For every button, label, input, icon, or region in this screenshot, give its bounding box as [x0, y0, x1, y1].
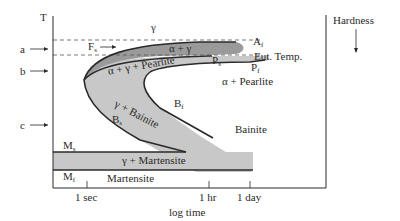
region-bainite: Bainite: [235, 124, 267, 135]
martensite-start-label: Ms: [63, 140, 76, 153]
ferrite-start-label: Fs: [88, 41, 97, 54]
eutectoid-temp-label: Eut. Temp.: [254, 51, 302, 62]
austenite-finish-label: Af: [253, 36, 263, 49]
y-axis-label: T: [40, 12, 47, 23]
x-axis-label: log time: [169, 207, 205, 218]
bainite-finish-label: Bf: [174, 98, 184, 111]
region-gamma: γ: [151, 22, 156, 33]
martensite-finish-label: Mf: [63, 171, 75, 184]
region-gamma-martensite: γ + Martensite: [122, 155, 186, 166]
diagram-graphics: [0, 0, 400, 221]
pearlite-finish-label: Pf: [251, 62, 259, 75]
pearlite-start-label: Ps: [212, 55, 221, 68]
bainite-start-label: Bs: [112, 114, 122, 127]
region-martensite: Martensite: [107, 173, 154, 184]
x-tick-1-sec: 1 sec: [75, 192, 97, 203]
marker-c: c: [20, 120, 25, 131]
ttt-diagram: T a b c γ α + γ α + γ + Pearlite α + Pea…: [0, 0, 400, 221]
marker-b: b: [20, 66, 26, 77]
region-alpha-pearlite: α + Pearlite: [222, 76, 273, 87]
x-tick-1-hr: 1 hr: [199, 192, 216, 203]
x-tick-1-day: 1 day: [237, 192, 261, 203]
marker-a: a: [20, 44, 25, 55]
hardness-label: Hardness: [333, 15, 374, 26]
